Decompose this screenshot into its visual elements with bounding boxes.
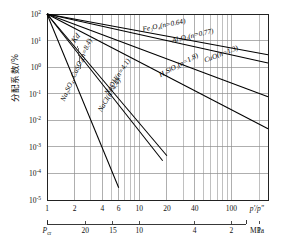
series-label-H2SiO3: H₂SiO₃(n=1.8): [157, 51, 200, 79]
x-tick-label: 20: [163, 204, 171, 213]
secondary-x-tick-label: 15: [109, 226, 117, 235]
y-tick-label: 10-1: [29, 89, 41, 99]
x-tick-label: 2: [73, 204, 77, 213]
x-tick-label: 1: [45, 204, 49, 213]
annotation-kd: Kd: [69, 31, 83, 45]
plot-frame: [47, 14, 268, 200]
y-axis-title: 分配系数/%: [8, 48, 20, 108]
x-tick-label: 10: [135, 204, 143, 213]
y-tick-label: 10-2: [29, 115, 41, 125]
y-tick-label: 10-5: [29, 195, 41, 205]
x-tick-label: 6: [117, 204, 121, 213]
secondary-x-tick-label: Pcr: [42, 226, 52, 236]
y-tick-label: 10-4: [29, 168, 41, 178]
secondary-x-axis-unit: MPa: [250, 226, 265, 235]
x-tick-label: 100: [226, 204, 238, 213]
secondary-x-tick-label: 2: [229, 226, 233, 235]
chart-figure: 分配系数/% 10210110010-110-210-310-410-51246…: [0, 0, 291, 250]
series-label-CuO: CuO(n=1.3): [203, 44, 240, 65]
y-tick-label: 102: [31, 9, 42, 19]
y-tick-label: 100: [31, 62, 42, 72]
secondary-x-tick-label: 20: [81, 226, 89, 235]
y-tick-label: 101: [31, 36, 42, 46]
secondary-x-tick-label: 4: [193, 226, 197, 235]
series-label-Al2O3: Al₂O₃(n=0.77): [170, 27, 215, 45]
y-tick-label: 10-3: [29, 142, 41, 152]
x-tick-label: 4: [101, 204, 105, 213]
chart-canvas: 10210110010-110-210-310-410-512461020401…: [0, 0, 291, 250]
secondary-x-tick-label: 10: [135, 226, 143, 235]
x-tick-label: 40: [191, 204, 199, 213]
x-axis-title: p'/p": [249, 204, 265, 213]
series-label-Fe3O4: Fe₃O₄(n=0.64): [141, 17, 187, 33]
